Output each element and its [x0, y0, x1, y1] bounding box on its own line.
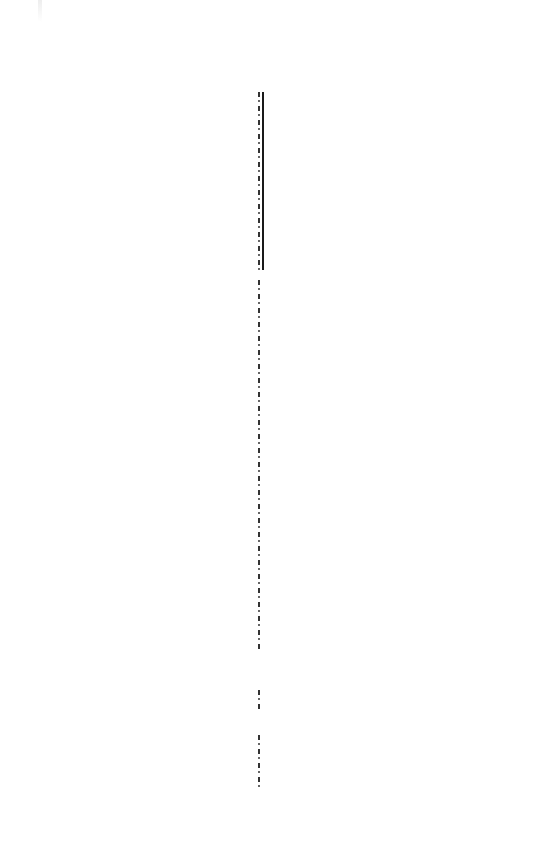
binding-gutter-line: [262, 92, 264, 270]
gutter-shadow-middle: [258, 280, 260, 650]
gutter-shadow-bottom: [258, 735, 260, 790]
scan-smudge: [38, 0, 42, 22]
blank-scanned-page: [0, 0, 548, 853]
gutter-shadow-fragment: [258, 690, 260, 710]
gutter-shadow-top: [258, 92, 260, 272]
